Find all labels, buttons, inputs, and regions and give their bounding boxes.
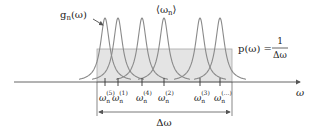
- svg-text:Δω: Δω: [156, 117, 171, 128]
- mean-frequency-label: ⟨ωn⟩: [156, 4, 177, 17]
- peak-frequency-label: ωn(2): [158, 89, 174, 104]
- peak-frequency-label: ωn(4): [136, 89, 152, 104]
- svg-text:gn(ω): gn(ω): [60, 9, 87, 22]
- svg-text:1: 1: [277, 36, 283, 46]
- svg-text:p(ω) =: p(ω) =: [238, 43, 272, 54]
- axis-label: ω: [296, 87, 304, 98]
- frequency-distribution-diagram: ω ωn(5)ωn(1)ωn(4)ωn(2)ωn(3)ωn(…) gn(ω) ⟨…: [0, 0, 336, 128]
- peak-frequency-label: ωn(…): [214, 89, 232, 104]
- uniform-distribution-box: [97, 49, 232, 82]
- density-formula: p(ω) = 1 Δω: [238, 36, 288, 60]
- curve-label: gn(ω): [60, 9, 103, 25]
- peak-frequency-label: ωn(3): [194, 89, 210, 104]
- svg-text:Δω: Δω: [273, 50, 287, 60]
